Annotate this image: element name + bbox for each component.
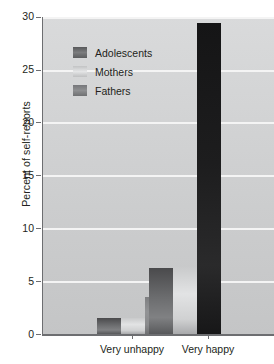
y-tick-mark-0 bbox=[36, 334, 41, 335]
legend-item-mothers: Mothers bbox=[73, 63, 152, 80]
y-tick-label-5: 5 bbox=[12, 276, 34, 287]
y-tick-label-10: 10 bbox=[12, 223, 34, 234]
gridline-15 bbox=[43, 175, 274, 177]
x-axis-line bbox=[42, 334, 274, 336]
y-tick-label-20: 20 bbox=[12, 117, 34, 128]
bar-fathers-very-happy bbox=[197, 23, 221, 334]
y-tick-mark-30 bbox=[36, 17, 41, 18]
plot-area: Adolescents Mothers Fathers bbox=[42, 17, 274, 334]
y-axis-tick-labels: 30 25 20 15 10 5 0 bbox=[12, 0, 34, 364]
bar-chart-figure: Percent of self-reports 30 25 20 15 10 5… bbox=[0, 0, 274, 364]
legend-label-adolescents: Adolescents bbox=[95, 47, 152, 59]
x-tick-mark-very-happy bbox=[208, 334, 209, 339]
legend-swatch-mothers-icon bbox=[73, 66, 87, 77]
x-tick-mark-very-unhappy bbox=[132, 334, 133, 339]
bar-mothers-very-unhappy bbox=[121, 318, 145, 334]
y-tick-mark-15 bbox=[36, 175, 41, 176]
y-tick-label-15: 15 bbox=[12, 170, 34, 181]
gridline-30 bbox=[43, 17, 274, 19]
y-tick-label-25: 25 bbox=[12, 64, 34, 75]
y-tick-mark-20 bbox=[36, 122, 41, 123]
bar-mothers-very-happy bbox=[173, 267, 197, 334]
legend-swatch-adolescents-icon bbox=[73, 47, 87, 58]
legend-label-mothers: Mothers bbox=[95, 66, 133, 78]
gridline-20 bbox=[43, 122, 274, 124]
gridline-10 bbox=[43, 228, 274, 230]
legend-swatch-fathers-icon bbox=[73, 85, 87, 96]
legend-item-adolescents: Adolescents bbox=[73, 44, 152, 61]
bar-adolescents-very-happy bbox=[149, 268, 173, 334]
y-tick-mark-5 bbox=[36, 281, 41, 282]
legend-item-fathers: Fathers bbox=[73, 82, 152, 99]
x-tick-label-very-unhappy: Very unhappy bbox=[100, 343, 164, 355]
y-tick-label-0: 0 bbox=[12, 329, 34, 340]
y-tick-mark-10 bbox=[36, 228, 41, 229]
bar-adolescents-very-unhappy bbox=[97, 318, 121, 334]
x-tick-label-very-happy: Very happy bbox=[182, 343, 235, 355]
chart-legend: Adolescents Mothers Fathers bbox=[73, 44, 152, 101]
y-tick-mark-25 bbox=[36, 70, 41, 71]
y-tick-label-30: 30 bbox=[12, 11, 34, 22]
legend-label-fathers: Fathers bbox=[95, 85, 131, 97]
